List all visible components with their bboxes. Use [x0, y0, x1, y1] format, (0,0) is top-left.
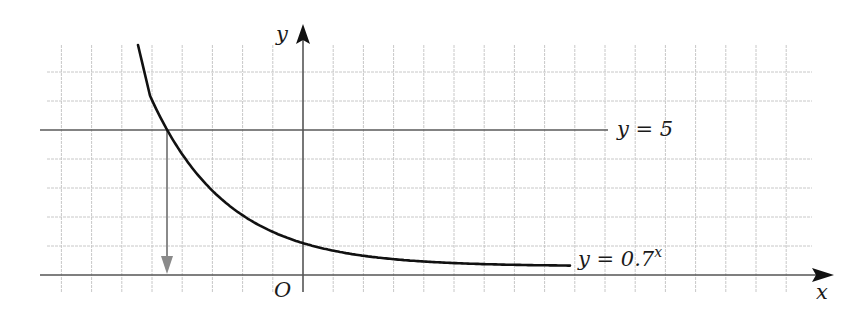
exponential-curve: [138, 45, 570, 266]
curve-label: y = 0.7x: [578, 245, 662, 270]
origin-label: O: [274, 280, 291, 301]
curve-label-base: y = 0.7: [578, 247, 654, 271]
curve-label-exponent: x: [654, 244, 662, 260]
projection-arrow-head-icon: [161, 256, 173, 274]
grid-lines: [47, 45, 812, 292]
exponential-graph: [0, 0, 866, 311]
y-equals-5-label: y = 5: [617, 119, 673, 140]
x-axis-label: x: [816, 282, 828, 303]
y-axis-label: y: [276, 24, 288, 45]
